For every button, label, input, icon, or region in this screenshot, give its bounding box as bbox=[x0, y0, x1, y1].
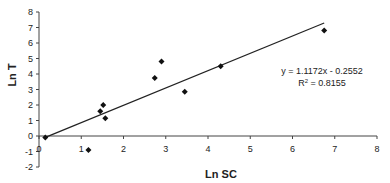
y-tick-label: 0 bbox=[28, 131, 33, 141]
y-tick-label: 7 bbox=[28, 23, 33, 33]
scatter-chart: -2-1012345678012345678 Ln SC Ln T y = 1.… bbox=[0, 0, 390, 183]
y-tick-label: 6 bbox=[28, 38, 33, 48]
y-tick-label: 1 bbox=[28, 116, 33, 126]
y-tick-label: 2 bbox=[28, 100, 33, 110]
data-point-diamond bbox=[42, 135, 48, 141]
x-tick-label: 1 bbox=[79, 144, 84, 154]
x-tick-label: 8 bbox=[374, 144, 379, 154]
y-tick-label: 5 bbox=[28, 54, 33, 64]
data-point-diamond bbox=[85, 147, 91, 153]
y-tick-label: -2 bbox=[25, 162, 33, 172]
x-axis-title: Ln SC bbox=[205, 168, 237, 180]
x-tick-label: 6 bbox=[290, 144, 295, 154]
y-tick-label: 3 bbox=[28, 85, 33, 95]
x-tick-label: 0 bbox=[36, 144, 41, 154]
trendline bbox=[45, 23, 324, 137]
data-points bbox=[42, 28, 327, 153]
x-tick-label: 4 bbox=[205, 144, 210, 154]
x-tick-label: 7 bbox=[332, 144, 337, 154]
axes: -2-1012345678012345678 bbox=[25, 7, 380, 172]
data-point-diamond bbox=[159, 59, 165, 65]
data-point-diamond bbox=[152, 75, 158, 81]
y-axis-title: Ln T bbox=[6, 63, 18, 86]
x-tick-label: 5 bbox=[248, 144, 253, 154]
data-point-diamond bbox=[97, 108, 103, 114]
y-tick-label: -1 bbox=[25, 147, 33, 157]
data-point-diamond bbox=[102, 115, 108, 121]
x-tick-label: 2 bbox=[121, 144, 126, 154]
data-point-diamond bbox=[321, 28, 327, 34]
x-tick-label: 3 bbox=[163, 144, 168, 154]
y-tick-label: 8 bbox=[28, 7, 33, 17]
y-tick-label: 4 bbox=[28, 69, 33, 79]
trendline-line bbox=[45, 23, 324, 137]
data-point-diamond bbox=[100, 102, 106, 108]
data-point-diamond bbox=[182, 89, 188, 95]
r-squared-label: R2 = 0.8155 bbox=[298, 78, 346, 88]
trendline-equation: y = 1.1172x - 0.2552 bbox=[281, 66, 363, 76]
